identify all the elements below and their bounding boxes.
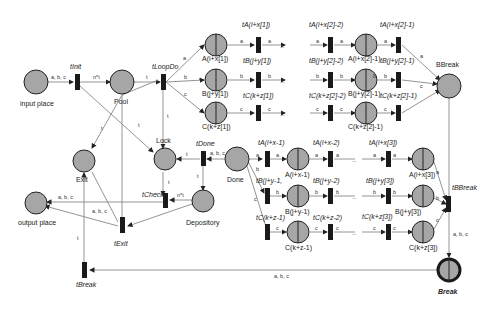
svg-text:C(k+z[1]): C(k+z[1]) <box>202 123 231 131</box>
svg-text:a: a <box>315 152 319 158</box>
svg-text:c: c <box>420 83 423 89</box>
place-a3[interactable] <box>412 148 434 170</box>
svg-text:c: c <box>276 225 279 231</box>
svg-text:tB(j+y[2]-2): tB(j+y[2]-2) <box>309 57 343 65</box>
svg-text:tB(j+y[2]-1): tB(j+y[2]-1) <box>380 57 414 65</box>
svg-text:t: t <box>197 173 199 179</box>
svg-text:a: a <box>384 38 388 44</box>
svg-text:b: b <box>184 74 187 80</box>
place-exit[interactable] <box>73 150 95 172</box>
svg-text:b: b <box>340 73 343 79</box>
place-c1[interactable] <box>205 102 227 124</box>
svg-text:t: t <box>168 179 170 185</box>
svg-text:c: c <box>436 217 439 223</box>
svg-text:B(j+y-1): B(j+y-1) <box>285 208 310 216</box>
place-ax1[interactable] <box>287 148 309 170</box>
svg-text:b: b <box>384 73 387 79</box>
svg-text:a, b, c: a, b, c <box>274 273 289 279</box>
svg-text:Lock: Lock <box>156 137 171 144</box>
svg-text:tC(k+z[3]): tC(k+z[3]) <box>362 213 393 221</box>
svg-text:tC(k+z-2): tC(k+z-2) <box>313 214 342 222</box>
svg-text:c: c <box>268 106 271 112</box>
svg-text:t: t <box>167 113 169 119</box>
svg-text:tExit: tExit <box>114 240 129 247</box>
place-a2[interactable] <box>355 34 377 56</box>
place-lock[interactable] <box>154 148 176 170</box>
svg-text:Done: Done <box>227 176 244 183</box>
svg-text:tBreak: tBreak <box>76 281 97 288</box>
svg-text:tB(j+y-2): tB(j+y-2) <box>313 177 340 185</box>
svg-text:tLoopDo: tLoopDo <box>152 63 179 71</box>
svg-text:tA(i+x[3]): tA(i+x[3]) <box>369 139 397 147</box>
svg-text:a: a <box>268 38 272 44</box>
place-pool[interactable] <box>110 70 134 94</box>
svg-text:tC(k+z[1]): tC(k+z[1]) <box>243 92 274 100</box>
svg-text:a: a <box>256 152 260 158</box>
svg-text:c: c <box>373 225 376 231</box>
place-output[interactable] <box>25 192 47 214</box>
svg-text:a: a <box>436 169 440 175</box>
svg-text:tB(j+y-1,: tB(j+y-1, <box>256 177 282 185</box>
place-input[interactable] <box>24 70 48 94</box>
place-a1[interactable] <box>205 34 227 56</box>
svg-text:tA(i+x[2]-2): tA(i+x[2]-2) <box>309 21 343 29</box>
place-c3[interactable] <box>412 221 434 243</box>
trans-tinit[interactable] <box>75 74 80 90</box>
svg-text:tB(j+y[1]): tB(j+y[1]) <box>243 57 271 65</box>
svg-text:tA(i+x-2): tA(i+x-2) <box>313 139 340 147</box>
svg-text:c: c <box>240 106 243 112</box>
place-cz1[interactable] <box>287 221 309 243</box>
svg-text:...: ... <box>352 194 357 200</box>
svg-text:input place: input place <box>20 100 54 108</box>
svg-text:a, b, c: a, b, c <box>58 194 73 200</box>
svg-text:b: b <box>316 73 319 79</box>
svg-text:B(j+y[2]-1): B(j+y[2]-1) <box>348 90 380 98</box>
svg-text:...: ... <box>280 43 285 49</box>
trans-tbreak[interactable] <box>82 262 87 278</box>
svg-text:tCheck: tCheck <box>142 191 164 198</box>
place-break[interactable] <box>438 259 460 281</box>
svg-text:tA(i+x-1): tA(i+x-1) <box>258 139 285 147</box>
svg-text:tA(i+x[2]-1): tA(i+x[2]-1) <box>380 21 414 29</box>
svg-text:a, b, c: a, b, c <box>51 74 66 80</box>
place-bbreak[interactable] <box>437 74 461 98</box>
svg-text:a: a <box>420 53 424 59</box>
svg-text:c: c <box>316 106 319 112</box>
svg-text:n*t: n*t <box>177 192 184 198</box>
svg-text:b: b <box>373 189 376 195</box>
svg-text:a, b, c: a, b, c <box>210 150 225 156</box>
svg-text:a: a <box>336 152 340 158</box>
svg-text:t: t <box>101 125 103 131</box>
place-c2[interactable] <box>355 102 377 124</box>
svg-text:tC(k+z[2]-2): tC(k+z[2]-2) <box>309 92 346 100</box>
trans-tloopdo[interactable] <box>161 74 166 90</box>
trans-tdone[interactable] <box>201 151 206 166</box>
svg-text:tC(k+z-1): tC(k+z-1) <box>256 214 285 222</box>
place-depository[interactable] <box>192 190 214 212</box>
svg-text:output place: output place <box>18 219 56 227</box>
svg-text:...: ... <box>280 111 285 117</box>
svg-text:Pool: Pool <box>114 98 128 105</box>
svg-text:b: b <box>268 73 271 79</box>
svg-text:a, b, c: a, b, c <box>92 208 107 214</box>
svg-text:t: t <box>138 122 140 128</box>
place-by1[interactable] <box>287 185 309 207</box>
svg-text:b: b <box>436 195 439 201</box>
svg-text:BBreak: BBreak <box>436 61 459 68</box>
svg-text:tA(i+x[1]): tA(i+x[1]) <box>242 21 270 29</box>
svg-text:b: b <box>276 189 279 195</box>
place-b1[interactable] <box>205 69 227 91</box>
svg-text:c: c <box>184 91 187 97</box>
svg-text:t: t <box>77 235 79 241</box>
svg-text:a: a <box>393 152 397 158</box>
svg-text:Exit: Exit <box>76 176 88 183</box>
svg-text:A(i+x[2]-1): A(i+x[2]-1) <box>348 55 380 63</box>
place-b3[interactable] <box>412 185 434 207</box>
trans-tbbreak[interactable] <box>446 196 451 212</box>
svg-text:A(i+x[3]): A(i+x[3]) <box>409 171 435 179</box>
svg-text:c: c <box>393 225 396 231</box>
trans-texit[interactable] <box>120 217 125 233</box>
petri-net-diagram: input place Pool Exit Lock output place … <box>0 0 487 310</box>
svg-text:b: b <box>373 73 376 79</box>
place-done[interactable] <box>225 147 249 171</box>
